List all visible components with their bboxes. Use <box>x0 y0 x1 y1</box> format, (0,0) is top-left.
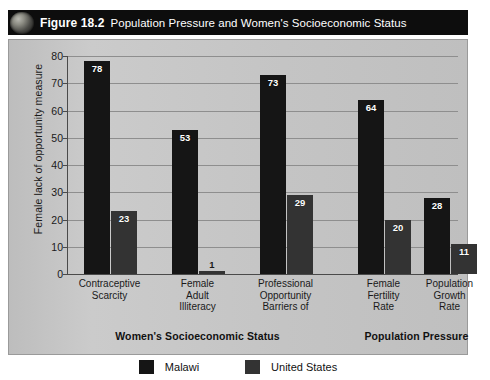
y-tick-label: 10 <box>51 241 63 253</box>
bar-value-label: 23 <box>119 213 130 274</box>
y-tick-label: 40 <box>51 159 63 171</box>
bar-united-states: 1 <box>199 271 225 274</box>
bar-united-states: 23 <box>111 211 137 274</box>
plot-area: 01020304050607080 7823531732964202811 <box>67 56 458 275</box>
bar-value-label: 1 <box>209 259 214 270</box>
bar-series-container: 7823531732964202811 <box>68 56 458 274</box>
bar-malawi: 78 <box>84 61 110 274</box>
legend-label: United States <box>271 361 337 373</box>
legend-label: Malawi <box>165 361 199 373</box>
bar-malawi: 53 <box>172 130 198 274</box>
bar-malawi: 73 <box>260 75 286 274</box>
bar-united-states: 29 <box>287 195 313 274</box>
figure-screenshot: Figure 18.2 Population Pressure and Wome… <box>0 0 490 380</box>
y-tick-label: 30 <box>51 186 63 198</box>
bar-value-label: 53 <box>180 132 191 274</box>
figure-title-bar: Figure 18.2 Population Pressure and Wome… <box>8 10 468 35</box>
y-tick-label: 20 <box>51 214 63 226</box>
y-axis-title: Female lack of opportunity measure <box>32 44 44 254</box>
bar-united-states: 11 <box>451 244 477 274</box>
group-title-womens-socioeconomic-status: Women's Socioeconomic Status <box>88 330 308 342</box>
legend-swatch <box>245 360 260 374</box>
bar-value-label: 73 <box>268 77 279 274</box>
bar-value-label: 29 <box>295 197 306 274</box>
category-label: ProfessionalOpportunityBarriers of <box>242 278 330 313</box>
bar-united-states: 20 <box>385 220 411 275</box>
bar-value-label: 20 <box>393 222 404 275</box>
chart-legend: MalawiUnited States <box>8 356 468 378</box>
bar-value-label: 28 <box>432 200 443 274</box>
y-tick-label: 0 <box>57 268 63 280</box>
y-tick-label: 50 <box>51 132 63 144</box>
bar-value-label: 78 <box>92 63 103 274</box>
bar-malawi: 64 <box>358 100 384 274</box>
legend-item: United States <box>245 360 337 374</box>
y-tick-mark <box>63 274 68 275</box>
legend-item: Malawi <box>139 360 199 374</box>
chart-frame: Female lack of opportunity measure 01020… <box>8 39 468 355</box>
globe-icon <box>10 12 34 34</box>
y-tick-label: 80 <box>51 50 63 62</box>
figure-title: Population Pressure and Women's Socioeco… <box>110 17 406 29</box>
category-axis-labels: ContraceptiveScarcityFemaleAdultIllitera… <box>67 278 457 324</box>
category-label: FemaleAdultIlliteracy <box>154 278 242 313</box>
group-title-population-pressure: Population Pressure <box>307 330 490 342</box>
bar-malawi: 28 <box>424 198 450 274</box>
y-tick-label: 60 <box>51 105 63 117</box>
category-label: ContraceptiveScarcity <box>66 278 154 301</box>
y-tick-label: 70 <box>51 77 63 89</box>
category-label: PopulationGrowthRate <box>406 278 490 313</box>
bar-value-label: 64 <box>366 102 377 274</box>
figure-number: Figure 18.2 <box>40 16 104 30</box>
legend-swatch <box>139 360 154 374</box>
bar-value-label: 11 <box>459 246 469 274</box>
